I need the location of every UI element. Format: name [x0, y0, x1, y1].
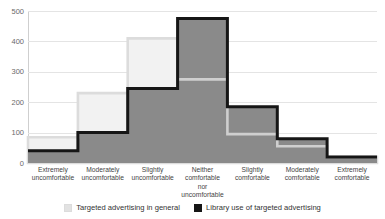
x-axis-category-labels: ExtremelyuncomfortableModeratelyuncomfor…	[28, 166, 377, 202]
x-tick-label-line: uncomfortable	[29, 174, 77, 182]
x-tick-label-1: Moderatelyuncomfortable	[78, 166, 128, 202]
chart-legend: Targeted advertising in generalLibrary u…	[0, 203, 385, 212]
x-tick-label-line: Extremely	[29, 166, 77, 174]
legend-item-1[interactable]: Library use of targeted advertising	[194, 203, 321, 212]
x-tick-label-3: Neithercomfortablenoruncomfortable	[178, 166, 228, 202]
plot-area	[28, 11, 377, 163]
x-tick-label-5: Moderatelycomfortable	[277, 166, 327, 202]
x-tick-label-4: Slightlycomfortable	[227, 166, 277, 202]
y-tick-label-300: 300	[0, 67, 24, 76]
y-tick-label-0: 0	[0, 159, 24, 168]
y-tick-label-100: 100	[0, 128, 24, 137]
x-tick-label-0: Extremelyuncomfortable	[28, 166, 78, 202]
x-tick-label-6: Extremelycomfortable	[327, 166, 377, 202]
x-tick-label-line: Slightly	[129, 166, 177, 174]
x-tick-label-line: Slightly	[228, 166, 276, 174]
legend-swatch-icon	[64, 204, 72, 212]
x-tick-label-line: uncomfortable	[79, 174, 127, 182]
legend-label: Targeted advertising in general	[76, 203, 180, 212]
x-tick-label-line: Moderately	[278, 166, 326, 174]
series-area-library-use-of-targeted-advertising	[28, 19, 377, 163]
x-tick-label-line: Neither	[179, 166, 227, 174]
legend-label: Library use of targeted advertising	[206, 203, 321, 212]
x-tick-label-line: comfortable	[179, 174, 227, 182]
y-tick-label-200: 200	[0, 98, 24, 107]
x-tick-label-2: Slightlyuncomfortable	[128, 166, 178, 202]
x-tick-label-line: uncomfortable	[179, 191, 227, 199]
legend-item-0[interactable]: Targeted advertising in general	[64, 203, 180, 212]
x-tick-label-line: comfortable	[328, 174, 376, 182]
step-area-series	[28, 11, 377, 163]
x-tick-label-line: comfortable	[278, 174, 326, 182]
x-tick-label-line: Extremely	[328, 166, 376, 174]
x-tick-label-line: nor	[179, 183, 227, 191]
x-tick-label-line: comfortable	[228, 174, 276, 182]
legend-swatch-icon	[194, 204, 202, 212]
y-tick-label-400: 400	[0, 37, 24, 46]
chart-container: 0100200300400500 ExtremelyuncomfortableM…	[0, 0, 385, 219]
x-tick-label-line: uncomfortable	[129, 174, 177, 182]
y-tick-label-500: 500	[0, 7, 24, 16]
x-tick-label-line: Moderately	[79, 166, 127, 174]
